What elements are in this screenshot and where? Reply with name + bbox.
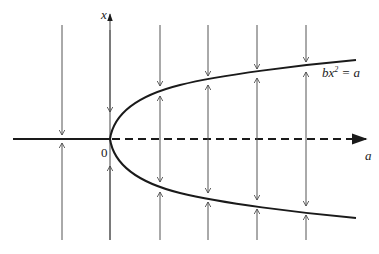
curve-label-rest: = a [338, 65, 360, 80]
a-axis-label: a [365, 149, 372, 162]
diagram-canvas [0, 0, 379, 254]
upper-branch [110, 60, 356, 139]
curve-label: bx2 = a [322, 66, 360, 79]
origin-label: 0 [101, 146, 108, 159]
curve-label-base: bx [322, 65, 334, 80]
x-axis-label: x [101, 8, 107, 21]
bifurcation-diagram: x 0 a bx2 = a [0, 0, 379, 254]
lower-branch [110, 139, 356, 218]
